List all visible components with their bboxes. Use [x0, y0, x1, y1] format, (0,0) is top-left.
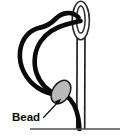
bead-needle-diagram: Bead: [0, 0, 124, 136]
bead-label: Bead: [12, 111, 40, 123]
diagram-canvas: Bead: [0, 0, 124, 136]
